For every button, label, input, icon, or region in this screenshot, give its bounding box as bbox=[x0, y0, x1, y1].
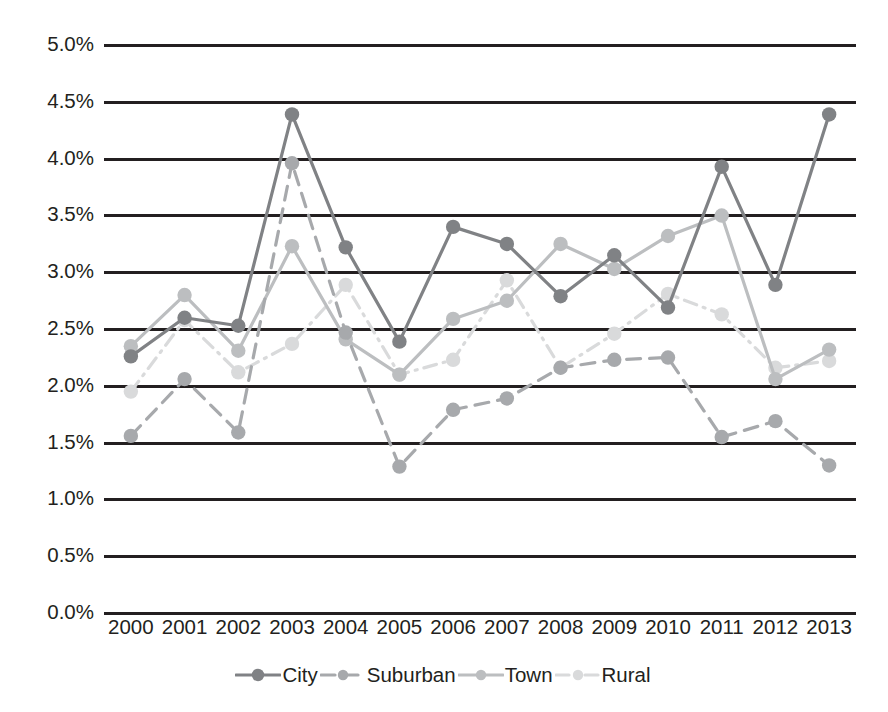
legend-item-suburban[interactable]: Suburban bbox=[320, 665, 458, 686]
data-point-marker bbox=[500, 391, 514, 405]
y-axis-tick-label: 3.0% bbox=[47, 261, 94, 282]
x-axis-tick-label: 2000 bbox=[108, 617, 154, 638]
x-axis-tick-label: 2009 bbox=[591, 617, 637, 638]
data-point-marker bbox=[177, 372, 191, 386]
x-axis-tick-label: 2003 bbox=[269, 617, 315, 638]
x-axis-tick-label: 2001 bbox=[162, 617, 208, 638]
data-point-marker bbox=[768, 414, 782, 428]
data-point-marker bbox=[500, 273, 514, 287]
x-axis: 2000200120022003200420052006200720082009… bbox=[104, 617, 856, 647]
plot-area bbox=[104, 44, 856, 612]
data-point-marker bbox=[446, 353, 460, 367]
data-point-marker bbox=[392, 459, 406, 473]
data-point-marker bbox=[768, 278, 782, 292]
legend-label: Rural bbox=[601, 665, 653, 686]
x-axis-tick-label: 2013 bbox=[806, 617, 852, 638]
data-point-marker bbox=[822, 458, 836, 472]
data-point-marker bbox=[124, 384, 138, 398]
x-axis-tick-label: 2005 bbox=[377, 617, 423, 638]
x-axis-tick-label: 2007 bbox=[484, 617, 530, 638]
data-point-marker bbox=[285, 239, 299, 253]
data-point-marker bbox=[715, 430, 729, 444]
line-chart: 0.0%0.5%1.0%1.5%2.0%2.5%3.0%3.5%4.0%4.5%… bbox=[0, 0, 888, 712]
data-point-marker bbox=[231, 319, 245, 333]
series-rural bbox=[124, 273, 837, 399]
data-point-marker bbox=[285, 107, 299, 121]
data-point-marker bbox=[285, 156, 299, 170]
legend-swatch-icon bbox=[235, 665, 281, 685]
data-point-marker bbox=[339, 278, 353, 292]
data-point-marker bbox=[392, 334, 406, 348]
data-point-marker bbox=[124, 349, 138, 363]
data-point-marker bbox=[553, 289, 567, 303]
data-point-marker bbox=[607, 262, 621, 276]
data-point-marker bbox=[715, 208, 729, 222]
data-point-marker bbox=[822, 342, 836, 356]
data-point-marker bbox=[231, 425, 245, 439]
series-layer bbox=[104, 44, 856, 612]
chart-legend: CitySuburbanTownRural bbox=[0, 655, 888, 695]
data-point-marker bbox=[768, 372, 782, 386]
data-point-marker bbox=[339, 240, 353, 254]
data-point-marker bbox=[661, 350, 675, 364]
data-point-marker bbox=[607, 326, 621, 340]
data-point-marker bbox=[607, 248, 621, 262]
legend-item-town[interactable]: Town bbox=[458, 665, 555, 686]
data-point-marker bbox=[661, 229, 675, 243]
y-axis-tick-label: 1.5% bbox=[47, 432, 94, 453]
x-axis-tick-label: 2011 bbox=[700, 617, 744, 638]
legend-item-rural[interactable]: Rural bbox=[555, 665, 653, 686]
data-point-marker bbox=[124, 429, 138, 443]
data-point-marker bbox=[715, 159, 729, 173]
y-axis-tick-label: 1.0% bbox=[47, 488, 94, 509]
data-point-marker bbox=[177, 311, 191, 325]
data-point-marker bbox=[231, 344, 245, 358]
x-axis-tick-label: 2008 bbox=[538, 617, 584, 638]
data-point-marker bbox=[231, 365, 245, 379]
data-point-marker bbox=[500, 294, 514, 308]
data-point-marker bbox=[553, 361, 567, 375]
x-axis-tick-label: 2010 bbox=[645, 617, 691, 638]
y-axis: 0.0%0.5%1.0%1.5%2.0%2.5%3.0%3.5%4.0%4.5%… bbox=[0, 0, 94, 712]
x-axis-tick-label: 2006 bbox=[430, 617, 476, 638]
x-axis-tick-label: 2002 bbox=[215, 617, 261, 638]
y-axis-tick-label: 3.5% bbox=[47, 204, 94, 225]
data-point-marker bbox=[607, 353, 621, 367]
legend-swatch-icon bbox=[320, 665, 366, 685]
data-point-marker bbox=[446, 220, 460, 234]
y-axis-tick-label: 5.0% bbox=[47, 34, 94, 55]
legend-swatch-icon bbox=[555, 665, 601, 685]
data-point-marker bbox=[500, 237, 514, 251]
legend-swatch-icon bbox=[458, 665, 504, 685]
legend-label: City bbox=[281, 665, 319, 686]
y-axis-tick-label: 4.5% bbox=[47, 91, 94, 112]
data-point-marker bbox=[661, 300, 675, 314]
data-point-marker bbox=[715, 307, 729, 321]
y-axis-tick-label: 4.0% bbox=[47, 148, 94, 169]
data-point-marker bbox=[553, 237, 567, 251]
series-suburban bbox=[124, 156, 837, 474]
data-point-marker bbox=[446, 312, 460, 326]
y-axis-tick-label: 2.5% bbox=[47, 318, 94, 339]
x-axis-tick-label: 2012 bbox=[753, 617, 799, 638]
data-point-marker bbox=[822, 107, 836, 121]
data-point-marker bbox=[446, 403, 460, 417]
y-axis-tick-label: 2.0% bbox=[47, 375, 94, 396]
data-point-marker bbox=[177, 288, 191, 302]
data-point-marker bbox=[392, 367, 406, 381]
x-axis-tick-label: 2004 bbox=[323, 617, 369, 638]
legend-item-city[interactable]: City bbox=[235, 665, 319, 686]
data-point-marker bbox=[285, 337, 299, 351]
data-point-marker bbox=[339, 325, 353, 339]
legend-label: Suburban bbox=[366, 665, 458, 686]
legend-label: Town bbox=[504, 665, 555, 686]
y-axis-tick-label: 0.0% bbox=[47, 602, 94, 623]
y-axis-tick-label: 0.5% bbox=[47, 545, 94, 566]
